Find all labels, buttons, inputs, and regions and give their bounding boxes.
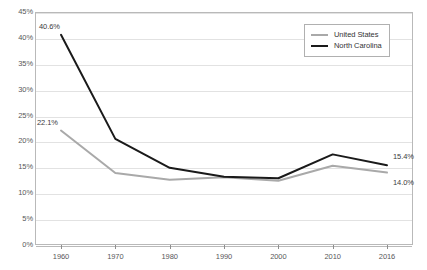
x-axis-tick-mark — [278, 245, 279, 249]
y-axis-tick-label: 25% — [3, 112, 33, 120]
x-axis-tick-label: 1970 — [92, 252, 138, 261]
x-axis-tick-label: 2000 — [255, 252, 301, 261]
data-point-label: 15.4% — [393, 152, 414, 161]
y-axis-tick-label: 10% — [3, 189, 33, 197]
chart-legend: United States North Carolina — [304, 24, 390, 57]
x-axis-tick-mark — [333, 245, 334, 249]
x-axis-tick-label: 2016 — [364, 252, 410, 261]
x-axis-tick-label: 1960 — [38, 252, 84, 261]
x-axis-tick-mark — [61, 245, 62, 249]
x-axis-tick-label: 1980 — [147, 252, 193, 261]
y-axis-tick-label: 15% — [3, 163, 33, 171]
data-point-label: 14.0% — [393, 178, 414, 187]
legend-label-north-carolina: North Carolina — [334, 40, 382, 51]
legend-label-united-states: United States — [334, 29, 378, 40]
y-axis-tick-label: 40% — [3, 34, 33, 42]
legend-swatch-united-states — [311, 34, 328, 36]
y-axis-tick-label: 30% — [3, 86, 33, 94]
y-axis-tick-label: 45% — [3, 8, 33, 16]
legend-swatch-north-carolina — [311, 45, 328, 47]
y-axis-tick-label: 35% — [3, 60, 33, 68]
x-axis-tick-mark — [387, 245, 388, 249]
x-axis-tick-mark — [115, 245, 116, 249]
x-axis-tick-mark — [170, 245, 171, 249]
data-point-label: 40.6% — [39, 22, 60, 31]
x-axis-tick-label: 1990 — [201, 252, 247, 261]
x-axis: 1960197019801990200020102016 — [35, 245, 413, 270]
y-axis-tick-label: 0% — [3, 241, 33, 249]
line-chart: 45%40%35%30%25%20%15%10%5%0% 40.6%22.1%1… — [0, 0, 427, 270]
x-axis-tick-mark — [224, 245, 225, 249]
y-axis: 45%40%35%30%25%20%15%10%5%0% — [0, 12, 33, 245]
legend-item-north-carolina: North Carolina — [311, 40, 382, 51]
data-point-label: 22.1% — [37, 118, 58, 127]
y-axis-tick-label: 20% — [3, 137, 33, 145]
x-axis-tick-label: 2010 — [310, 252, 356, 261]
y-axis-tick-label: 5% — [3, 215, 33, 223]
legend-item-united-states: United States — [311, 29, 382, 40]
